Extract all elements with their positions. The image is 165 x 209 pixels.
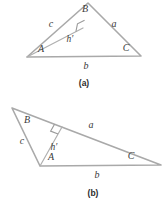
figure-root: A B C c a b h′ (a) A B C c a b h′ (b) — [0, 0, 165, 209]
side-label-a: a — [112, 18, 117, 29]
vertex-label-B: B — [24, 114, 30, 125]
altitude-label-h-prime: h′ — [67, 34, 75, 44]
side-label-b: b — [84, 60, 89, 71]
vertex-label-C: C — [128, 150, 135, 161]
side-label-b: b — [95, 169, 100, 180]
vertex-label-C: C — [123, 42, 130, 53]
panel-b-group: A B C c a b h′ (b) — [12, 108, 161, 198]
altitude-label-h-prime: h′ — [51, 142, 59, 152]
side-label-c: c — [49, 18, 54, 29]
panel-caption-a: (a) — [79, 78, 90, 88]
panel-a-group: A B C c a b h′ (a) — [27, 3, 141, 88]
panel-caption-b: (b) — [88, 188, 99, 198]
vertex-label-A: A — [47, 151, 55, 162]
side-label-c: c — [20, 135, 25, 146]
triangle-outline-b — [12, 108, 161, 166]
vertex-label-B: B — [82, 3, 88, 14]
vertex-label-A: A — [37, 43, 45, 54]
geometry-figure-svg: A B C c a b h′ (a) A B C c a b h′ (b) — [0, 0, 165, 209]
side-label-a: a — [89, 119, 94, 130]
